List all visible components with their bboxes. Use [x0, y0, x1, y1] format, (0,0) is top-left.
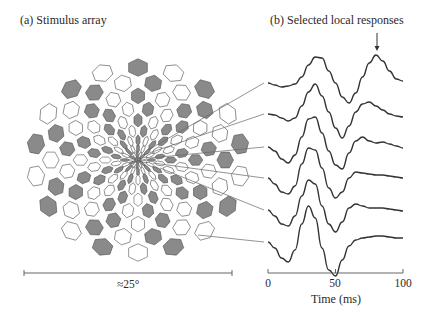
stimulus-hexagon [59, 76, 85, 101]
stimulus-hexagon [87, 148, 102, 158]
stimulus-hexagon [114, 74, 132, 93]
stimulus-hexagon [101, 107, 117, 125]
stimulus-hexagon [85, 118, 103, 135]
stimulus-hexagon [58, 163, 76, 178]
stimulus-hexagon [184, 170, 201, 185]
response-traces [268, 55, 403, 276]
figure [0, 0, 440, 314]
stimulus-hexagon [116, 179, 127, 192]
stimulus-hexagon [147, 115, 159, 130]
stimulus-hexagon [58, 141, 76, 156]
response-trace [268, 206, 403, 276]
x-tick-100: 100 [394, 277, 411, 289]
stimulus-hexagon [114, 227, 132, 246]
response-trace [268, 55, 403, 103]
stimulus-hexagon [120, 159, 129, 162]
stimulus-hexagon [59, 218, 85, 243]
x-axis-label: Time (ms) [311, 292, 361, 307]
stimulus-hexagon [215, 101, 240, 126]
stimulus-hexagon [142, 203, 155, 219]
stimulus-hexagon [26, 165, 47, 186]
stimulus-hexagon [105, 90, 123, 109]
stimulus-hexagon [169, 173, 185, 187]
stimulus-hexagon [73, 155, 88, 165]
stimulus-hexagon [129, 244, 148, 262]
stimulus-hexagon [26, 133, 47, 154]
stimulus-hexagon [190, 118, 210, 137]
stimulus-hexagon [175, 148, 190, 158]
stimulus-hexagon [117, 115, 129, 130]
stimulus-hexagon [142, 101, 155, 117]
stimulus-hexagon [128, 125, 136, 138]
stimulus-hexagon [159, 196, 175, 214]
response-trace [268, 180, 403, 232]
scale-bar-label: ≈25° [117, 278, 139, 290]
stimulus-hexagon [132, 216, 145, 232]
stimulus-hexagon [192, 218, 218, 243]
stimulus-hexagon [188, 155, 203, 165]
stimulus-hexagon [134, 114, 142, 127]
stimulus-hexagon [156, 173, 169, 185]
stimulus-hexagon [159, 122, 174, 137]
stimulus-hexagon [127, 173, 134, 184]
stimulus-hexagon [230, 133, 251, 154]
stimulus-hexagon [142, 173, 149, 184]
stimulus-hexagon [169, 133, 185, 147]
stimulus-hexagon [87, 162, 102, 172]
stimulus-hexagon [101, 196, 117, 214]
stimulus-hexagon [147, 190, 159, 205]
stimulus-hexagon [83, 81, 105, 103]
stimulus-hexagon [217, 152, 234, 168]
stimulus-hexagon [110, 161, 121, 167]
stimulus-hexagon [92, 133, 108, 147]
stimulus-hexagon [92, 173, 108, 187]
stimulus-hexagon [149, 128, 160, 141]
stimulus-hexagon [82, 199, 102, 219]
stimulus-hexagon [101, 165, 114, 175]
stimulus-hexagon [154, 211, 172, 230]
stimulus-hexagon [209, 176, 230, 196]
stimulus-hexagon [215, 194, 240, 219]
stimulus-hexagon [66, 183, 86, 202]
stimulus-hexagon [43, 152, 60, 168]
stimulus-hexagon [101, 145, 114, 155]
stimulus-hexagon [129, 59, 148, 77]
stimulus-hexagon [102, 122, 117, 137]
stimulus-hexagon [171, 81, 193, 103]
response-trace [268, 117, 403, 169]
stimulus-hexagon [162, 62, 186, 85]
stimulus-hexagon [122, 203, 135, 219]
stimulus-hexagon [110, 154, 121, 160]
stimulus-hexagon [136, 174, 140, 185]
stimulus-hexagon [142, 136, 149, 147]
stimulus-hexagon [91, 62, 115, 85]
stimulus-hexagon [162, 235, 186, 258]
stimulus-hexagon [173, 184, 191, 201]
stimulus-hexagon [132, 88, 145, 104]
stimulus-hexagon [154, 90, 172, 109]
stimulus-hexagon [106, 135, 119, 147]
stimulus-hexagon [165, 157, 177, 163]
stimulus-hexagon [147, 159, 156, 162]
stimulus-hexagon [200, 141, 218, 156]
response-trace [268, 84, 403, 138]
stimulus-hexagon [36, 194, 61, 219]
stimulus-hexagon [60, 199, 83, 222]
stimulus-hexagon [159, 183, 174, 198]
stimulus-hexagon [105, 211, 123, 230]
stimulus-hexagon [46, 123, 67, 143]
stimulus-hexagon [106, 173, 119, 185]
stimulus-hexagon [60, 99, 83, 122]
stimulus-hexagon [99, 157, 111, 163]
stimulus-hexagon [36, 101, 61, 126]
panel-b-title: (b) Selected local responses [270, 13, 404, 28]
stimulus-hexagon [136, 135, 140, 146]
stimulus-hexagon [140, 125, 148, 138]
stimulus-hexagon [159, 107, 175, 125]
stimulus-hexagon [174, 199, 194, 219]
response-trace [268, 148, 403, 198]
stimulus-hexagon [83, 216, 105, 238]
stimulus-hexagon [91, 235, 115, 258]
stimulus-hexagon [190, 183, 210, 202]
stimulus-hexagon [75, 135, 92, 150]
